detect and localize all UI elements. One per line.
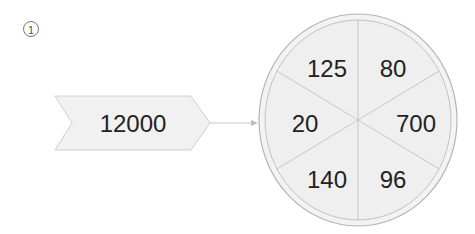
arrow-connector xyxy=(210,120,258,126)
segment-top-right: 80 xyxy=(380,55,407,82)
input-value: 12000 xyxy=(100,110,167,137)
segment-top-left: 125 xyxy=(307,55,347,82)
segment-bottom-left: 140 xyxy=(307,166,347,193)
segment-bottom-right: 96 xyxy=(380,166,407,193)
number-wheel: 125 80 700 96 140 20 xyxy=(259,14,457,226)
segment-left: 20 xyxy=(292,110,319,137)
segment-right: 700 xyxy=(396,110,436,137)
svg-text:1: 1 xyxy=(28,24,34,36)
problem-marker: 1 xyxy=(24,22,39,37)
input-chevron: 12000 xyxy=(55,96,210,150)
